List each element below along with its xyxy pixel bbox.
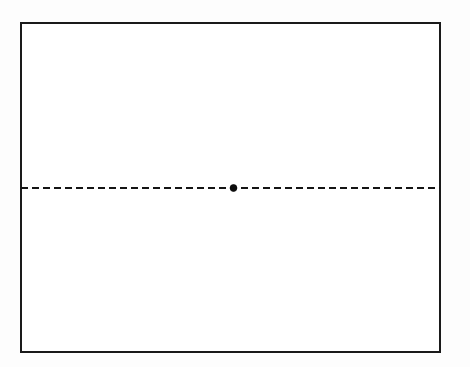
- figure-canvas: [0, 0, 470, 367]
- center-point-marker: [230, 185, 237, 192]
- figure-root: [0, 0, 470, 367]
